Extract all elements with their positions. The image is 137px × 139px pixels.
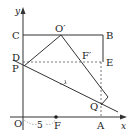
y-axis-arrow-icon [21,7,26,14]
label-A: A [96,120,105,131]
label-D: D [12,52,20,63]
label-Q: Q [90,101,98,112]
label-5: 5 [37,120,43,130]
label-C: C [12,30,20,41]
x-axis-arrow-icon [120,115,127,120]
label-B: B [106,30,113,41]
label-y: y [14,6,21,16]
label-P: P [12,63,19,74]
label-x: x [121,121,126,131]
point-F [54,115,58,119]
label-E: E [106,57,113,68]
geometry-diagram: y x O C B O′ D P E F′ Q A F 5 [0,0,137,139]
label-F-prime: F′ [82,50,92,61]
label-O-prime: O′ [55,23,66,34]
segment-PO-prime [24,35,61,66]
crease-line [13,60,118,112]
label-F: F [54,120,61,131]
label-O: O [14,118,22,129]
